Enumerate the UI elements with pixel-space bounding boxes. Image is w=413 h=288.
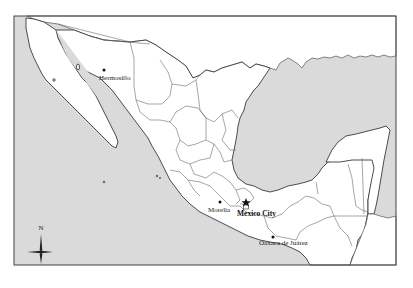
city-label-mexico-city: Mexico City (237, 209, 276, 218)
city-label-oaxaca: Oaxaca de Juárez (259, 239, 308, 247)
city-label-morelia: Morelia (208, 206, 231, 214)
compass-north-label: N (39, 224, 44, 232)
mexico-map: Hermosillo Morelia Mexico City Oaxaca de… (0, 0, 413, 288)
city-marker (103, 69, 106, 72)
city-marker (219, 201, 222, 204)
city-label-hermosillo: Hermosillo (99, 74, 131, 82)
